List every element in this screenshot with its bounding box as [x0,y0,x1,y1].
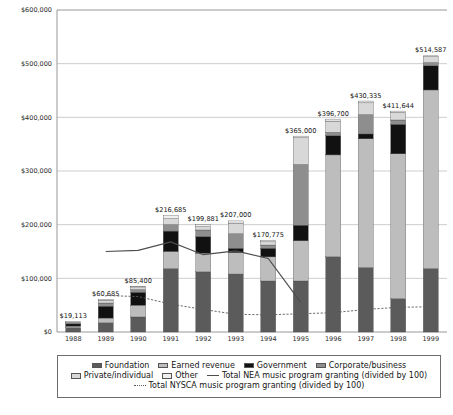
bar-segment [391,113,406,121]
bar-segment [228,274,243,332]
legend-swatch-icon [162,373,172,379]
legend-dotted-line-icon [134,385,146,386]
bar-total-label: $170,775 [253,231,284,239]
legend-item[interactable]: Private/individual [71,371,153,380]
bar-segment [98,303,113,306]
y-axis-tick-label: $400,000 [21,114,52,122]
chart-container: $0$100,000$200,000$300,000$400,000$500,0… [0,0,453,415]
bar-total-label: $514,587 [415,46,446,54]
bar-segment [261,242,276,245]
bar-segment [228,234,243,248]
bar-segment [358,115,373,134]
x-axis-tick-label: 1990 [130,335,147,343]
bar-segment [98,299,113,300]
legend-item[interactable]: Total NYSCA music program granting (divi… [134,381,365,390]
bar-segment [228,253,243,274]
x-axis-tick-label: 1995 [292,335,309,343]
bar-segment [326,119,341,121]
bar-segment [163,225,178,231]
bar-segment [326,132,341,135]
bar-segment [423,56,438,57]
bar-total-label: $216,685 [155,206,186,214]
bar-segment [228,223,243,234]
legend-item-label: Private/individual [84,371,153,380]
y-axis-tick-label: $600,000 [21,6,52,14]
bar-total-label: $85,400 [125,277,152,285]
bar-segment [391,124,406,154]
legend-swatch-icon [158,363,168,369]
legend-item-label: Government [257,361,307,370]
bar-segment [131,287,146,290]
legend-item[interactable]: Foundation [92,361,150,370]
bar-segment [66,326,81,328]
bar-segment [423,90,438,269]
bar-segment [98,300,113,303]
bar-segment [66,322,81,323]
legend-item-label: Other [175,371,198,380]
bar-segment [293,136,308,138]
x-axis-tick-label: 1992 [195,335,212,343]
bar-segment [326,155,341,257]
x-axis-tick-label: 1999 [422,335,439,343]
bar-segment [261,257,276,281]
bar-segment [423,269,438,332]
bar-segment [293,281,308,332]
bar-segment [261,281,276,332]
legend-item[interactable]: Earned revenue [158,361,234,370]
x-axis-tick-label: 1991 [162,335,179,343]
legend-item[interactable]: Total NEA music program granting (divide… [207,371,427,380]
bar-segment [326,257,341,332]
x-axis-tick-label: 1998 [390,335,407,343]
x-axis-tick-label: 1997 [357,335,374,343]
legend-row: Private/individualOtherTotal NEA music p… [62,371,436,380]
bar-segment [98,318,113,323]
bar-segment [261,240,276,241]
bar-segment [358,101,373,103]
bar-segment [98,323,113,332]
legend-swatch-icon [244,363,254,369]
bar-segment [163,269,178,332]
legend-item[interactable]: Other [162,371,198,380]
bar-total-label: $411,644 [383,102,414,110]
legend-swatch-icon [316,363,326,369]
bar-segment [163,252,178,269]
bar-segment [196,236,211,253]
y-axis-tick-label: $200,000 [21,221,52,229]
bar-segment [131,290,146,293]
legend-item-label: Corporate/business [329,361,407,370]
legend-row: FoundationEarned revenueGovernmentCorpor… [62,361,436,370]
x-axis-tick-label: 1994 [260,335,277,343]
y-axis-tick-label: $100,000 [21,275,52,283]
bar-segment [196,272,211,332]
bar-segment [391,154,406,299]
x-axis-tick-label: 1989 [97,335,114,343]
bar-segment [196,253,211,272]
bar-segment [358,268,373,332]
bar-segment [261,245,276,248]
x-axis-tick-label: 1988 [65,335,82,343]
legend-item[interactable]: Corporate/business [316,361,407,370]
bar-segment [293,241,308,281]
legend-item-label: Total NYSCA music program granting (divi… [149,381,365,390]
bar-total-label: $365,000 [285,127,316,135]
bar-total-label: $199,881 [188,215,219,223]
bar-segment [326,121,341,132]
legend-item[interactable]: Government [244,361,307,370]
legend-swatch-icon [71,373,81,379]
bar-segment [293,225,308,241]
bar-total-label: $430,335 [350,92,381,100]
bar-segment [163,219,178,225]
bar-segment [131,317,146,332]
bar-total-label: $19,113 [60,312,87,320]
bar-segment [261,248,276,257]
bar-segment [66,328,81,332]
legend-solid-line-icon [207,375,219,376]
bar-segment [98,306,113,318]
bar-total-label: $60,685 [92,290,119,298]
bar-segment [423,66,438,90]
bar-total-label: $396,700 [318,110,349,118]
legend-item-label: Foundation [105,361,150,370]
bar-segment [66,324,81,326]
bar-segment [358,103,373,115]
bar-segment [358,134,373,139]
